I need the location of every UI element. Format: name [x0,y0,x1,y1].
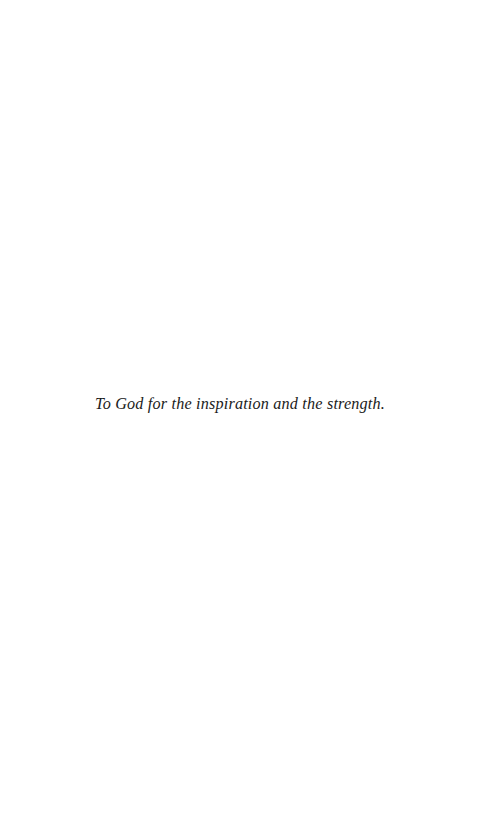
dedication-text: To God for the inspiration and the stren… [95,395,435,414]
document-page: To God for the inspiration and the stren… [0,0,497,820]
dedication-block: To God for the inspiration and the stren… [0,0,497,820]
